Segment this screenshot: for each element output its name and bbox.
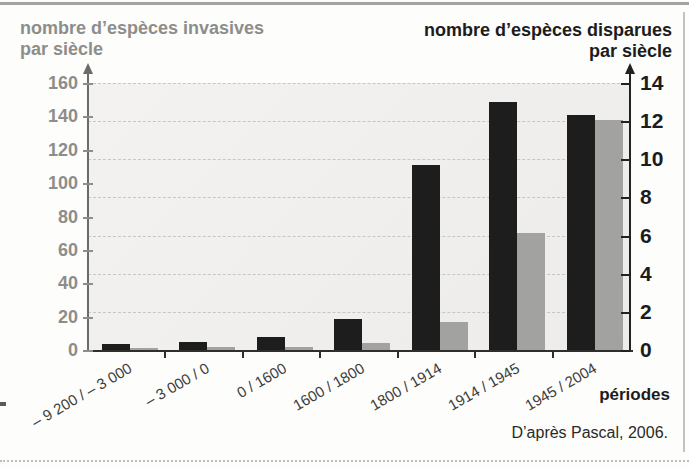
left-axis-tick-label: 60 [18, 240, 78, 261]
left-axis-tick-label: 20 [18, 307, 78, 328]
x-category-label: 1945 / 2004 [522, 359, 599, 413]
right-axis-tick-label: 10 [640, 147, 663, 171]
right-axis-arrow-icon [625, 63, 635, 74]
right-axis-tick [621, 236, 630, 238]
bar-invasives [595, 120, 623, 350]
x-axis-tick [319, 352, 321, 358]
gridline [88, 312, 630, 313]
right-axis-title-line1: nombre d’espèces disparues [424, 20, 672, 41]
right-axis-tick-label: 6 [640, 224, 652, 248]
right-axis-title-line2: par siècle [424, 41, 672, 62]
x-category-label: – 9 200 / – 3 000 [29, 359, 135, 430]
x-axis-tick [242, 352, 244, 358]
left-axis-tick-label: 40 [18, 273, 78, 294]
left-axis-tick [83, 116, 93, 118]
x-axis-label: périodes [599, 385, 670, 405]
left-axis-tick [83, 83, 93, 85]
bar-invasives [517, 233, 545, 350]
gridline [88, 83, 630, 84]
right-axis-tick-label: 2 [640, 300, 652, 324]
left-axis-tick-label: 160 [18, 73, 78, 94]
gridline [88, 236, 630, 237]
gridline [88, 197, 630, 198]
left-axis-tick [83, 250, 93, 252]
left-axis-tick [83, 150, 93, 152]
right-axis-tick [621, 350, 630, 352]
right-axis-tick [621, 312, 630, 314]
gridline [88, 121, 630, 122]
bar-disparues [334, 319, 362, 350]
left-axis-tick-label: 0 [18, 340, 78, 361]
x-category-label: 1800 / 1914 [367, 359, 444, 413]
right-axis-tick [621, 121, 630, 123]
bar-invasives [440, 322, 468, 350]
bar-disparues [567, 115, 595, 350]
left-axis-tick-label: 120 [18, 140, 78, 161]
right-axis-tick-label: 4 [640, 262, 652, 286]
scan-border-right [683, 12, 685, 452]
gridline [88, 274, 630, 275]
left-axis-title-line2: par siècle [20, 39, 264, 60]
right-axis-tick [621, 197, 630, 199]
left-axis-tick-label: 80 [18, 207, 78, 228]
x-category-label: – 3 000 / 0 [142, 359, 212, 409]
x-axis-tick [397, 352, 399, 358]
left-axis-title-line1: nombre d’espèces invasives [20, 18, 264, 39]
bar-disparues [179, 342, 207, 350]
right-axis-tick [621, 83, 630, 85]
x-axis-tick [474, 352, 476, 358]
bar-disparues [412, 165, 440, 350]
scan-artifact-dash [0, 402, 6, 406]
scanned-chart-figure: nombre d’espèces invasives par siècle no… [0, 0, 689, 468]
left-axis-tick [83, 317, 93, 319]
bar-disparues [489, 102, 517, 350]
source-credit: D’après Pascal, 2006. [511, 424, 668, 442]
x-category-label: 1600 / 1800 [290, 359, 367, 413]
left-axis-arrow-icon [83, 63, 93, 74]
right-axis-title: nombre d’espèces disparues par siècle [424, 20, 672, 62]
plot-background [88, 83, 630, 350]
left-axis-tick [83, 217, 93, 219]
right-axis-tick-label: 0 [640, 338, 652, 362]
right-axis-line [629, 70, 631, 352]
x-category-label: 0 / 1600 [234, 359, 289, 401]
right-axis-tick-label: 12 [640, 109, 663, 133]
x-category-label: 1914 / 1945 [445, 359, 522, 413]
left-axis-line [87, 70, 89, 352]
right-axis-tick [621, 274, 630, 276]
left-axis-tick-label: 140 [18, 106, 78, 127]
scan-border-top [0, 2, 689, 5]
left-axis-tick [83, 283, 93, 285]
gridline [88, 159, 630, 160]
scan-border-bottom [0, 460, 689, 462]
x-axis-tick [164, 352, 166, 358]
right-axis-tick [621, 159, 630, 161]
bar-invasives [362, 343, 390, 350]
x-axis-tick [552, 352, 554, 358]
left-axis-title: nombre d’espèces invasives par siècle [20, 18, 264, 60]
right-axis-tick-label: 8 [640, 185, 652, 209]
left-axis-tick-label: 100 [18, 173, 78, 194]
left-axis-tick [83, 350, 93, 352]
right-axis-tick-label: 14 [640, 71, 663, 95]
left-axis-tick [83, 183, 93, 185]
bar-disparues [257, 337, 285, 350]
